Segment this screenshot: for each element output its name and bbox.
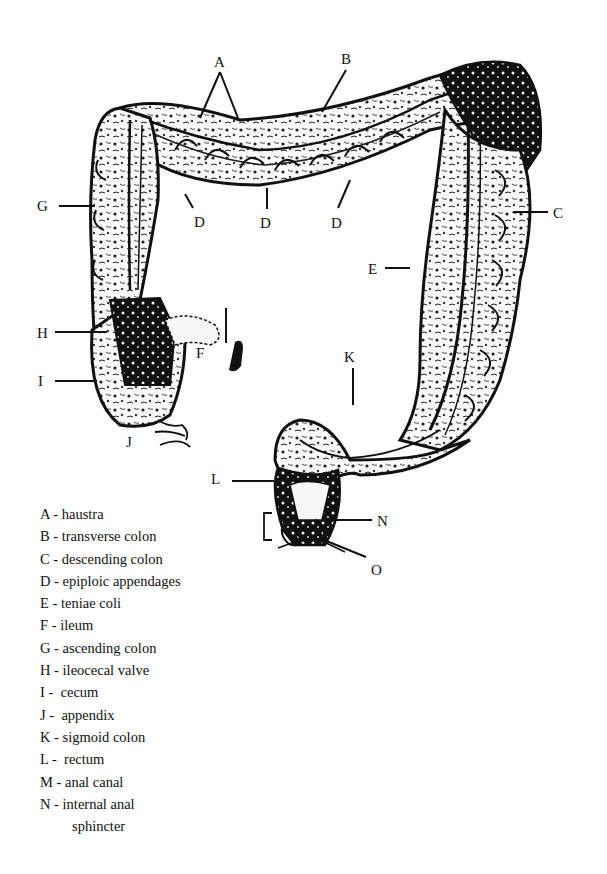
- callout-L: L: [211, 472, 220, 487]
- large-intestine-diagram: A B C D D D E F G H I J K L N O: [0, 0, 607, 560]
- callout-I: I: [38, 374, 43, 389]
- legend-item-B: B - transverse colon: [40, 525, 181, 547]
- callout-O: O: [371, 563, 382, 578]
- callout-A: A: [214, 55, 225, 70]
- legend-item-I: I - cecum: [40, 681, 181, 703]
- callout-D-1: D: [194, 215, 205, 230]
- legend-item-E: E - teniae coli: [40, 592, 181, 614]
- legend-item-J: J - appendix: [40, 704, 181, 726]
- legend-item-G: G - ascending colon: [40, 637, 181, 659]
- callout-J: J: [126, 435, 132, 450]
- callout-G: G: [37, 199, 48, 214]
- legend-item-F: F - ileum: [40, 614, 181, 636]
- callout-N: N: [377, 514, 388, 529]
- legend-item-M: M - anal canal: [40, 771, 181, 793]
- legend-item-N: N - internal analsphincter: [40, 793, 181, 838]
- callout-D-3: D: [331, 216, 342, 231]
- descending-colon: [400, 110, 530, 450]
- legend-item-D: D - epiploic appendages: [40, 570, 181, 592]
- legend-item-N-continuation: sphincter: [40, 815, 181, 837]
- callout-D-2: D: [260, 216, 271, 231]
- legend-item-L: L - rectum: [40, 748, 181, 770]
- callout-E: E: [368, 262, 377, 277]
- callout-K: K: [344, 350, 355, 365]
- rectum: [275, 468, 345, 552]
- legend-item-C: C - descending colon: [40, 548, 181, 570]
- callout-F: F: [196, 346, 204, 361]
- legend: A - haustra B - transverse colon C - des…: [40, 503, 181, 837]
- callout-C: C: [553, 206, 563, 221]
- callout-H: H: [37, 326, 48, 341]
- legend-item-K: K - sigmoid colon: [40, 726, 181, 748]
- appendix: [155, 420, 190, 447]
- legend-item-A: A - haustra: [40, 503, 181, 525]
- legend-item-H: H - ileocecal valve: [40, 659, 181, 681]
- callout-B: B: [341, 52, 351, 67]
